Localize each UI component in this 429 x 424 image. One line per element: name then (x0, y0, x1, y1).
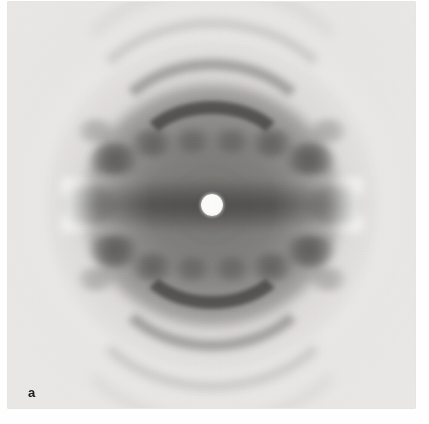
photo-vignette (8, 2, 415, 408)
diffraction-photograph: a (8, 2, 415, 408)
figure-caption (0, 416, 429, 424)
panel-label: a (28, 386, 35, 399)
figure-page: a (0, 0, 429, 424)
